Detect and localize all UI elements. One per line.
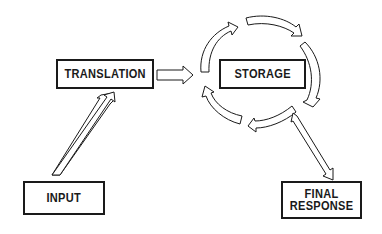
storage-node: STORAGE xyxy=(219,59,306,89)
cycle-arrow-bottom-left xyxy=(202,86,242,124)
final-response-label: FINAL RESPONSE xyxy=(290,188,354,212)
input-node: INPUT xyxy=(23,181,105,215)
storage-label: STORAGE xyxy=(234,68,290,80)
input-label: INPUT xyxy=(47,192,82,204)
translation-label: TRANSLATION xyxy=(64,68,145,80)
cycle-arrow-bottom xyxy=(248,106,296,132)
arrow-storage-to-final-response xyxy=(291,113,333,180)
final-response-node: FINAL RESPONSE xyxy=(281,181,362,219)
translation-node: TRANSLATION xyxy=(56,59,154,89)
cycle-arrow-top xyxy=(246,16,302,36)
arrow-translation-to-storage xyxy=(157,66,193,84)
